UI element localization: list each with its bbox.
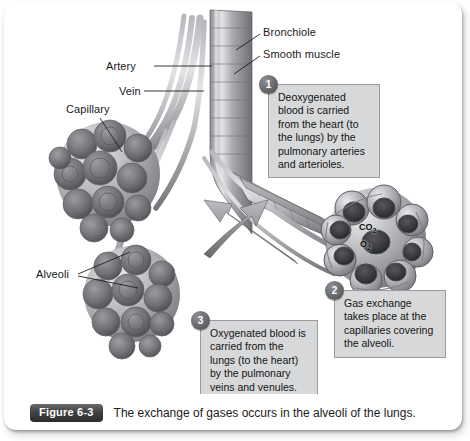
label-capillary: Capillary [66,104,110,115]
label-smooth-muscle: Smooth muscle [263,49,340,60]
alveolar-sac-cutaway [321,185,433,296]
callout-step-1: 1 Deoxygenated blood is carried from the… [268,84,380,178]
label-carbon-dioxide: CO2 [359,223,376,234]
figure-number-badge: Figure 6-3 [30,404,103,422]
co2-subscript: 2 [373,227,377,234]
callout-text-2: Gas exchange takes place at the capillar… [344,297,437,351]
label-bronchiole: Bronchiole [263,27,316,38]
alveoli-cluster-lower-left [83,245,180,359]
label-artery: Artery [106,61,136,72]
callout-text-3: Oxygenated blood is carried from the lun… [210,327,309,394]
callout-badge-3: 3 [191,311,210,330]
callout-badge-1: 1 [259,75,278,94]
callout-step-2: 2 Gas exchange takes place at the capill… [334,290,446,358]
o2-symbol: O [360,239,367,249]
figure-caption-text: The exchange of gases occurs in the alve… [114,406,416,420]
figure-panel: Bronchiole Smooth muscle Artery Vein Cap… [4,2,462,430]
co2-symbol: CO [359,222,373,232]
figure-caption-row: Figure 6-3 The exchange of gases occurs … [4,396,462,430]
illustration-canvas: Bronchiole Smooth muscle Artery Vein Cap… [4,2,462,394]
label-vein: Vein [119,86,141,97]
callout-text-1: Deoxygenated blood is carried from the h… [278,91,371,171]
o2-subscript: 2 [367,244,371,251]
callout-badge-2: 2 [325,281,344,300]
callout-step-3: 3 Oxygenated blood is carried from the l… [200,320,318,394]
label-oxygen: O2 [360,240,371,251]
alveoli-cluster-upper-left [49,120,160,242]
label-alveoli: Alveoli [36,269,69,280]
